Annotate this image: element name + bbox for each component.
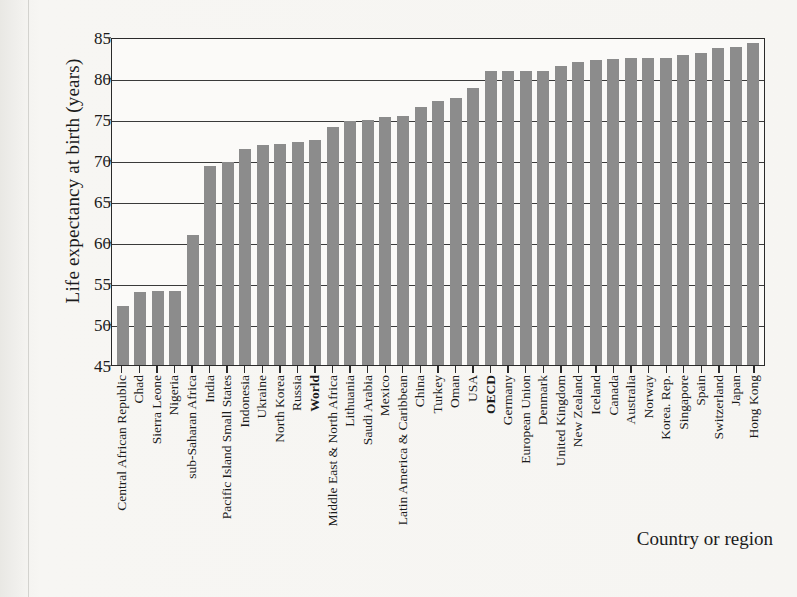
- bar: [607, 59, 619, 365]
- x-axis-tick-mark: [156, 366, 157, 373]
- x-axis-tick-label: Ukraine: [256, 375, 270, 418]
- bar: [415, 107, 427, 365]
- x-axis-tick-slot: [570, 366, 588, 374]
- x-axis-tick-label: Singapore: [677, 375, 691, 430]
- bar: [625, 58, 637, 365]
- x-axis-tick-slot: [236, 366, 254, 374]
- x-axis-tick-mark: [139, 366, 140, 373]
- x-axis-tick-mark: [578, 366, 579, 373]
- bar-slot: [692, 39, 710, 365]
- x-axis-label-slot: Central African Republic: [113, 375, 131, 525]
- x-axis-tick-label: Indonesia: [238, 375, 252, 427]
- x-axis-label-slot: USA: [464, 375, 482, 525]
- x-axis-tick-label: OECD: [484, 375, 498, 414]
- bar: [747, 43, 759, 365]
- bar: [239, 149, 251, 365]
- x-axis-tick-mark: [666, 366, 667, 373]
- bar-slot: [202, 39, 220, 365]
- x-axis-label-slot: Oman: [447, 375, 465, 525]
- x-axis-label-slot: Canada: [605, 375, 623, 525]
- bar-slot: [237, 39, 255, 365]
- bar-slot: [184, 39, 202, 365]
- x-axis-tick-slot: [552, 366, 570, 374]
- x-axis-label-slot: Latin America & Caribbean: [394, 375, 412, 525]
- x-axis-label-slot: Germany: [499, 375, 517, 525]
- x-axis-tick-label: Korea. Rep.: [659, 375, 673, 440]
- bar-slot: [534, 39, 552, 365]
- bar-slot: [675, 39, 693, 365]
- x-axis-tick-label: Pacific Island Small States: [220, 375, 234, 519]
- y-axis-tick-label: 85: [51, 30, 111, 47]
- bar-slot: [657, 39, 675, 365]
- bar: [712, 48, 724, 365]
- x-axis-tick-label: Middle East & North Africa: [326, 375, 340, 526]
- x-axis-label-slot: European Union: [517, 375, 535, 525]
- bar-slot: [482, 39, 500, 365]
- bar: [344, 121, 356, 365]
- x-axis-tick-label: Central African Republic: [115, 375, 129, 511]
- x-axis-tick-slot: [587, 366, 605, 374]
- x-axis-tick-label: World: [308, 375, 322, 412]
- x-axis-tick-mark: [630, 366, 631, 373]
- bar: [677, 55, 689, 365]
- x-axis-label-slot: Hong Kong: [745, 375, 763, 525]
- bar-slot: [149, 39, 167, 365]
- x-axis-tick-label: Germany: [501, 375, 515, 425]
- x-axis-tick-mark: [525, 366, 526, 373]
- x-axis-tick-label: Lithuania: [343, 375, 357, 427]
- x-axis-tick-slot: [517, 366, 535, 374]
- x-axis-tick-slot: [394, 366, 412, 374]
- x-axis-tick-labels: Central African RepublicChadSierra Leone…: [111, 375, 765, 525]
- x-axis-tick-mark: [472, 366, 473, 373]
- x-axis-tick-mark: [332, 366, 333, 373]
- x-axis-tick-label: Latin America & Caribbean: [396, 375, 410, 525]
- x-axis-tick-mark: [121, 366, 122, 373]
- x-axis-label-slot: Norway: [640, 375, 658, 525]
- x-axis-label-slot: Middle East & North Africa: [324, 375, 342, 525]
- bar: [572, 62, 584, 365]
- x-axis-tick-label: Russia: [291, 375, 305, 411]
- x-axis-tick-slot: [499, 366, 517, 374]
- x-axis-tick-marks: [111, 366, 765, 374]
- bar: [730, 47, 742, 365]
- x-axis-tick-mark: [385, 366, 386, 373]
- x-axis-label-slot: Lithuania: [341, 375, 359, 525]
- bar-slot: [394, 39, 412, 365]
- bar-slot: [569, 39, 587, 365]
- x-axis-tick-label: Chad: [133, 375, 147, 404]
- x-axis-tick-slot: [745, 366, 763, 374]
- x-axis-label-slot: Mexico: [376, 375, 394, 525]
- x-axis-tick-slot: [605, 366, 623, 374]
- x-axis-tick-label: North Korea: [273, 375, 287, 443]
- x-axis-label-slot: North Korea: [271, 375, 289, 525]
- bar-slot: [587, 39, 605, 365]
- bar-slot: [114, 39, 132, 365]
- bar-slot: [745, 39, 763, 365]
- x-axis-label-slot: New Zealand: [570, 375, 588, 525]
- x-axis-tick-slot: [622, 366, 640, 374]
- x-axis-tick-mark: [490, 366, 491, 373]
- y-axis-tick-label: 50: [51, 317, 111, 334]
- y-axis-tick-label: 80: [51, 71, 111, 88]
- bar-slot: [710, 39, 728, 365]
- x-axis-label-slot: Switzerland: [710, 375, 728, 525]
- x-axis-tick-slot: [429, 366, 447, 374]
- bar: [467, 88, 479, 365]
- bar: [362, 120, 374, 365]
- x-axis-label-slot: Saudi Arabia: [359, 375, 377, 525]
- x-axis-tick-slot: [166, 366, 184, 374]
- x-axis-tick-mark: [595, 366, 596, 373]
- bar-slot: [307, 39, 325, 365]
- x-axis-tick-slot: [359, 366, 377, 374]
- bar: [537, 71, 549, 365]
- x-axis-tick-label: Canada: [607, 375, 621, 415]
- x-axis-tick-mark: [402, 366, 403, 373]
- x-axis-label-slot: Denmark: [535, 375, 553, 525]
- x-axis-label-slot: OECD: [482, 375, 500, 525]
- x-axis-tick-label: Spain: [695, 375, 709, 406]
- x-axis-label-slot: Sierra Leone: [148, 375, 166, 525]
- plot-area: [111, 38, 765, 366]
- bar: [152, 291, 164, 365]
- x-axis-tick-mark: [560, 366, 561, 373]
- x-axis-label-slot: sub-Saharan Africa: [183, 375, 201, 525]
